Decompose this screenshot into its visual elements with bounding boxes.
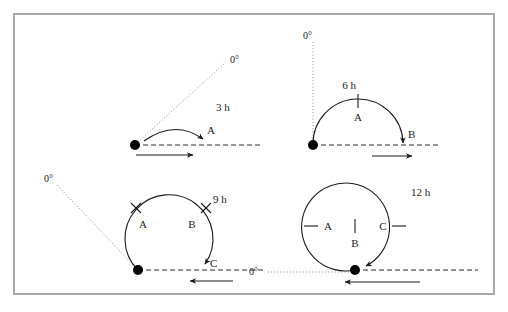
pivot-dot-9h — [133, 265, 143, 275]
point-label-a-3h: A — [207, 124, 215, 136]
point-label-c-9h: C — [210, 257, 217, 269]
point-label-b-12h: B — [351, 237, 358, 249]
pivot-dot-3h — [130, 140, 140, 150]
pivot-dot-6h — [308, 140, 318, 150]
zero-degree-label-3h: 0° — [230, 54, 239, 65]
hour-label-3h: 3 h — [216, 101, 230, 113]
zero-degree-label-9h: 0° — [44, 173, 53, 184]
rotation-arc-12h — [302, 183, 390, 271]
zero-degree-ray-9h — [57, 185, 135, 267]
panel-6h: 0° 6 h A B — [303, 30, 441, 156]
hour-label-12h: 12 h — [411, 186, 431, 198]
rotation-arc-3h — [144, 129, 203, 141]
point-label-b-6h: B — [408, 128, 415, 140]
point-label-a-6h: A — [354, 111, 362, 123]
panel-3h: 0° 3 h A — [130, 54, 263, 155]
point-label-a-9h: A — [139, 218, 147, 230]
hour-label-6h: 6 h — [342, 79, 356, 91]
point-label-b-9h: B — [188, 218, 195, 230]
panel-12h: 0° 12 h B A C — [249, 183, 478, 282]
figure-root: 0° 3 h A 0° 6 h A B — [0, 0, 508, 312]
zero-degree-label-12h: 0° — [249, 266, 258, 277]
zero-degree-label-6h: 0° — [303, 30, 312, 41]
point-label-a-12h: A — [324, 220, 332, 232]
hour-label-9h: 9 h — [213, 193, 227, 205]
point-label-c-12h: C — [379, 220, 386, 232]
panel-9h: 0° 9 h A B C — [44, 173, 266, 281]
rotation-diagram-canvas: 0° 3 h A 0° 6 h A B — [0, 0, 508, 312]
pivot-dot-12h — [350, 265, 360, 275]
